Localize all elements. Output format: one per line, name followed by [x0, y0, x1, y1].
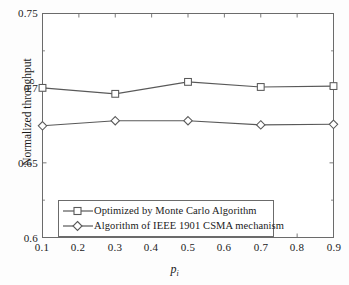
data-point-1-1 [111, 117, 119, 125]
legend-marker-diamond [62, 219, 94, 233]
legend-item-1: Algorithm of IEEE 1901 CSMA mechanism [62, 218, 270, 233]
chart-canvas [0, 0, 349, 285]
data-point-0-2 [185, 78, 192, 85]
chart-figure: 0.75 0.7 0.65 0.6 0.1 0.2 0.3 0.4 0.5 0.… [0, 0, 349, 285]
data-point-1-0 [38, 122, 46, 130]
legend-marker-square [62, 204, 94, 218]
legend-label-0: Optimized by Monte Carlo Algorithm [94, 205, 257, 216]
data-point-0-0 [39, 84, 46, 91]
chart-legend: Optimized by Monte Carlo Algorithm Algor… [58, 200, 274, 237]
data-point-0-1 [112, 90, 119, 97]
legend-item-0: Optimized by Monte Carlo Algorithm [62, 203, 270, 218]
data-point-1-4 [329, 120, 337, 128]
data-point-0-3 [257, 84, 264, 91]
data-point-1-3 [257, 121, 265, 129]
data-point-0-4 [330, 83, 337, 90]
data-point-1-2 [184, 117, 192, 125]
legend-label-1: Algorithm of IEEE 1901 CSMA mechanism [94, 220, 284, 231]
